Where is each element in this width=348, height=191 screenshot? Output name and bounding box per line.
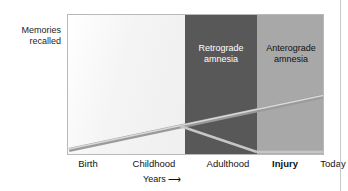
x-tick-birth: Birth <box>60 158 116 169</box>
x-tick-adulthood: Adulthood <box>192 158 264 169</box>
x-tick-childhood: Childhood <box>116 158 192 169</box>
amnesia-memory-recall-line <box>180 126 323 152</box>
amnesia-memory-figure: Memories recalled Retrograde amnesia Ant… <box>0 0 348 191</box>
data-lines <box>68 15 324 155</box>
retrograde-amnesia-label-line1: Retrograde <box>185 43 257 54</box>
x-axis-tick-labels: Birth Childhood Adulthood Injury Today <box>60 158 342 172</box>
y-axis-label-line1: Memories <box>8 25 61 36</box>
retrograde-amnesia-label: Retrograde amnesia <box>185 43 257 65</box>
plot-area: Retrograde amnesia Anterograde amnesia <box>67 14 324 155</box>
right-margin-rule <box>340 0 341 191</box>
anterograde-amnesia-label-line1: Anterograde <box>257 43 324 54</box>
anterograde-amnesia-label-line2: amnesia <box>257 54 324 65</box>
y-axis-label: Memories recalled <box>8 25 61 46</box>
normal-memory-recall-line <box>69 95 324 150</box>
x-axis-title: Years ⟶ <box>143 174 181 184</box>
right-arrow-icon: ⟶ <box>168 174 181 184</box>
x-tick-injury: Injury <box>260 158 310 169</box>
anterograde-amnesia-label: Anterograde amnesia <box>257 43 324 65</box>
x-tick-today: Today <box>308 158 348 169</box>
retrograde-amnesia-label-line2: amnesia <box>185 54 257 65</box>
x-axis-title-text: Years <box>143 174 166 184</box>
y-axis-label-line2: recalled <box>8 36 61 47</box>
